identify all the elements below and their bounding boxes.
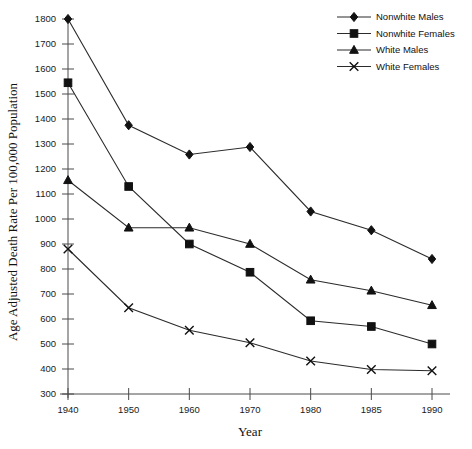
x-tick-label: 1990 xyxy=(421,404,442,415)
data-point-marker-x xyxy=(185,326,194,335)
y-tick-label: 1400 xyxy=(35,113,56,124)
y-tick-label: 500 xyxy=(40,338,56,349)
y-tick-label: 1000 xyxy=(35,213,56,224)
y-tick-label: 900 xyxy=(40,238,56,249)
x-tick-label: 1940 xyxy=(57,404,78,415)
data-point-marker-square xyxy=(307,317,315,325)
y-tick-label: 1500 xyxy=(35,88,56,99)
series-nonwhite-females xyxy=(64,79,436,348)
y-tick-label: 1800 xyxy=(35,13,56,24)
x-tick-label: 1985 xyxy=(361,404,382,415)
x-axis-ticks: 1940195019601970198019851990 xyxy=(57,388,442,415)
data-point-marker-diamond xyxy=(125,121,132,130)
series-white-females xyxy=(64,245,437,375)
legend-label: White Males xyxy=(376,44,429,55)
series-line xyxy=(68,83,432,344)
data-point-marker-diamond xyxy=(186,150,193,159)
legend-item-nonwhite-males[interactable]: Nonwhite Males xyxy=(337,11,444,22)
y-axis-title-text: Age Adjusted Death Rate Per 100,000 Popu… xyxy=(5,82,20,341)
y-tick-label: 400 xyxy=(40,363,56,374)
legend-label: Nonwhite Females xyxy=(376,28,455,39)
data-point-marker-square xyxy=(186,240,194,248)
data-point-marker-square xyxy=(125,183,133,191)
y-axis-title: Age Adjusted Death Rate Per 100,000 Popu… xyxy=(5,82,20,341)
y-tick-label: 700 xyxy=(40,288,56,299)
data-point-marker-square xyxy=(246,268,254,276)
data-point-marker-triangle xyxy=(306,275,315,283)
x-axis-title-text: Year xyxy=(238,424,263,439)
series-line xyxy=(68,249,432,371)
chart-legend: Nonwhite MalesNonwhite FemalesWhite Male… xyxy=(337,11,455,72)
y-tick-label: 1100 xyxy=(36,188,56,199)
legend-item-white-females[interactable]: White Females xyxy=(337,61,440,72)
y-tick-label: 1600 xyxy=(35,63,56,74)
x-tick-label: 1970 xyxy=(239,404,260,415)
data-point-marker-square xyxy=(350,30,358,38)
legend-item-nonwhite-females[interactable]: Nonwhite Females xyxy=(337,28,455,39)
data-point-marker-diamond xyxy=(350,12,357,21)
data-point-marker-triangle xyxy=(124,223,133,231)
line-chart: Age Adjusted Death Rate Per 100,000 Popu… xyxy=(0,0,472,449)
y-tick-label: 1300 xyxy=(35,138,56,149)
data-point-marker-triangle xyxy=(64,176,73,184)
chart-figure: Age Adjusted Death Rate Per 100,000 Popu… xyxy=(0,0,472,449)
x-tick-label: 1950 xyxy=(118,404,139,415)
legend-item-white-males[interactable]: White Males xyxy=(337,44,429,55)
data-point-marker-x xyxy=(124,303,133,312)
x-axis-title: Year xyxy=(238,424,263,439)
x-tick-label: 1980 xyxy=(300,404,321,415)
data-point-marker-square xyxy=(428,340,436,348)
series-white-males xyxy=(64,176,437,309)
y-tick-label: 1700 xyxy=(35,38,56,49)
y-tick-label: 600 xyxy=(40,313,56,324)
legend-label: Nonwhite Males xyxy=(376,11,444,22)
data-point-marker-diamond xyxy=(64,14,71,23)
data-point-marker-diamond xyxy=(428,254,435,263)
y-tick-label: 300 xyxy=(40,388,56,399)
data-point-marker-x xyxy=(246,338,255,347)
data-point-marker-square xyxy=(368,323,376,331)
legend-label: White Females xyxy=(376,61,440,72)
data-point-marker-triangle xyxy=(185,223,194,231)
y-tick-label: 1200 xyxy=(35,163,56,174)
data-point-marker-square xyxy=(64,79,72,87)
data-point-marker-diamond xyxy=(368,226,375,235)
x-tick-label: 1960 xyxy=(179,404,200,415)
y-tick-label: 800 xyxy=(40,263,56,274)
data-point-marker-triangle xyxy=(350,45,359,53)
